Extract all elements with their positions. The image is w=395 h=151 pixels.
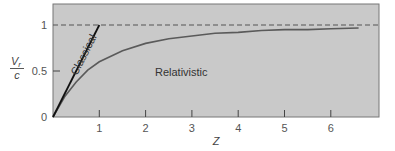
x-axis-tick-labels: 1 2 3 4 5 6 (96, 122, 334, 134)
x-axis-title: Z (212, 135, 221, 147)
x-tick-label: 4 (235, 122, 241, 134)
x-tick-label: 3 (189, 122, 195, 134)
chart: 1 2 3 4 5 6 0 0.5 1 Vr c Z Classical Rel… (0, 0, 395, 151)
svg-text:Vr: Vr (11, 55, 21, 69)
x-tick-label: 2 (143, 122, 149, 134)
svg-text:c: c (14, 69, 20, 81)
y-tick-label: 1 (41, 19, 47, 31)
relativistic-label: Relativistic (155, 66, 208, 78)
x-tick-label: 5 (281, 122, 287, 134)
y-axis-tick-labels: 0 0.5 1 (32, 19, 47, 123)
x-tick-label: 1 (96, 122, 102, 134)
y-tick-label: 0.5 (32, 65, 47, 77)
y-tick-label: 0 (41, 111, 47, 123)
y-axis-title: Vr c (10, 55, 24, 81)
x-tick-label: 6 (328, 122, 334, 134)
